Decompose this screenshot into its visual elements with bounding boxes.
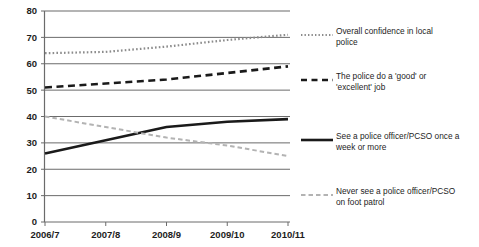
y-tick-label: 70 [26, 32, 37, 43]
x-tick-label: 2009/10 [210, 229, 244, 240]
x-tick-label: 2007/8 [91, 229, 120, 240]
y-tick-labels: 80706050403020100 [26, 5, 37, 227]
series-line [45, 117, 288, 157]
legend-label-overall-confidence: Overall confidence in local police [334, 26, 433, 47]
y-tick-label: 10 [26, 190, 37, 201]
legend-item-see-officer-weekly[interactable]: See a police officer/PCSO once a week or… [300, 131, 459, 152]
gridline-group [45, 11, 290, 222]
series-line [45, 66, 288, 87]
dotted-line-swatch [300, 27, 334, 39]
y-tick-label: 60 [26, 58, 37, 69]
chart-container: 80706050403020100 2006/72007/82008/92009… [0, 0, 479, 247]
x-tick-label: 2010/11 [271, 229, 306, 240]
y-tick-label: 20 [26, 164, 37, 175]
legend-label-never-see-officer: Never see a police officer/PCSO on foot … [334, 186, 455, 207]
x-tick-mark-group [45, 222, 288, 226]
legend-item-good-or-excellent-job[interactable]: The police do a 'good' or 'excellent' jo… [300, 71, 426, 92]
legend-label-see-officer-weekly: See a police officer/PCSO once a week or… [334, 131, 459, 152]
x-tick-label: 2008/9 [152, 229, 181, 240]
y-tick-label: 40 [26, 111, 37, 122]
series-line [45, 119, 288, 153]
light-dashed-line-swatch [300, 187, 334, 199]
dashed-line-swatch [300, 72, 334, 84]
legend-label-good-or-excellent-job: The police do a 'good' or 'excellent' jo… [334, 71, 426, 92]
y-tick-label: 50 [26, 85, 37, 96]
solid-line-swatch [300, 132, 334, 144]
series-group [45, 35, 288, 156]
y-tick-label: 80 [26, 5, 37, 16]
y-tick-label: 0 [32, 216, 37, 227]
y-tick-label: 30 [26, 137, 37, 148]
legend-item-never-see-officer[interactable]: Never see a police officer/PCSO on foot … [300, 186, 455, 207]
x-tick-label: 2006/7 [30, 229, 59, 240]
x-tick-labels: 2006/72007/82008/92009/102010/11 [30, 229, 305, 240]
legend-item-overall-confidence[interactable]: Overall confidence in local police [300, 26, 433, 47]
